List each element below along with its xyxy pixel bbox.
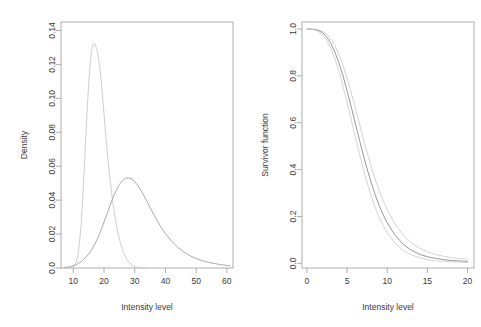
density-xtick-label: 40 <box>161 276 171 286</box>
survivor-ytick-label: 0.0 <box>288 257 298 269</box>
density-yaxis-label: Density <box>19 130 29 159</box>
panel-survivor: 051015200.00.20.40.60.81.0Intensity leve… <box>241 0 481 327</box>
density-ytick-label: 0.12 <box>47 56 57 73</box>
survivor-xtick-label: 15 <box>423 276 433 286</box>
survivor-plot-svg: 051015200.00.20.40.60.81.0Intensity leve… <box>241 0 481 327</box>
survivor-ytick-label: 0.2 <box>288 210 298 222</box>
density-xtick-label: 50 <box>191 276 201 286</box>
density-xtick-label: 10 <box>69 276 79 286</box>
survivor-curve-survivor-lower-band <box>307 29 468 262</box>
survivor-curve-survivor-estimate <box>307 29 468 261</box>
survivor-xtick-label: 10 <box>382 276 392 286</box>
density-plot-frame <box>61 22 233 268</box>
survivor-ytick-label: 0.8 <box>288 70 298 82</box>
survivor-curve-survivor-upper-band <box>307 29 468 259</box>
survivor-yaxis-label: Survivor function <box>260 113 270 177</box>
survivor-plot-frame <box>302 22 474 268</box>
survivor-ytick-label: 1.0 <box>288 23 298 35</box>
density-ytick-label: 0.04 <box>47 192 57 209</box>
density-xtick-label: 60 <box>222 276 232 286</box>
panel-density: 1020304050600.00.020.040.060.080.100.120… <box>0 0 240 327</box>
figure-container: 1020304050600.00.020.040.060.080.100.120… <box>0 0 481 327</box>
survivor-xtick-label: 5 <box>345 276 350 286</box>
density-ytick-label: 0.06 <box>47 158 57 175</box>
density-ytick-label: 0.08 <box>47 124 57 141</box>
density-ytick-label: 0.0 <box>47 262 57 274</box>
density-curve-narrow-density <box>67 44 145 268</box>
density-xtick-label: 20 <box>99 276 109 286</box>
density-ytick-label: 0.02 <box>47 226 57 243</box>
density-plot-svg: 1020304050600.00.020.040.060.080.100.120… <box>0 0 240 327</box>
density-xtick-label: 30 <box>130 276 140 286</box>
density-ytick-label: 0.10 <box>47 90 57 107</box>
survivor-ytick-label: 0.4 <box>288 163 298 175</box>
survivor-xaxis-label: Intensity level <box>362 302 414 312</box>
survivor-ytick-label: 0.6 <box>288 117 298 129</box>
density-curve-broad-density <box>64 178 230 268</box>
survivor-xtick-label: 0 <box>304 276 309 286</box>
survivor-xtick-label: 20 <box>463 276 473 286</box>
density-xaxis-label: Intensity level <box>121 302 173 312</box>
density-ytick-label: 0.14 <box>47 22 57 39</box>
